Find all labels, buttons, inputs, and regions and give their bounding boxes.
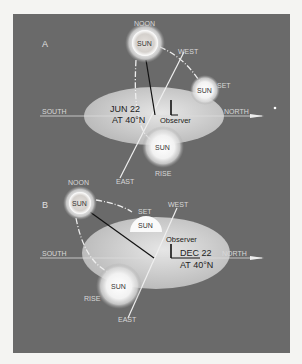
sun-rise-label: SUN <box>111 283 126 290</box>
sun-path-afternoon <box>96 200 132 212</box>
rise-label: RISE <box>84 295 101 302</box>
north-label: NORTH <box>224 108 249 115</box>
set-label: SET <box>138 208 152 215</box>
noon-label: NOON <box>68 179 89 186</box>
sun-noon-label: SUN <box>137 40 152 47</box>
sun-noon-label: SUN <box>72 200 87 207</box>
north-arrow-icon <box>250 114 264 118</box>
panel-b: B SUN NOON SUN SET SUN RISE WEST SOUTH N… <box>40 179 264 323</box>
latitude-label: AT 40°N <box>180 260 213 270</box>
south-label: SOUTH <box>42 108 67 115</box>
sun-set-label: SUN <box>138 222 153 229</box>
set-label: SET <box>217 82 231 89</box>
west-label: WEST <box>178 48 199 55</box>
panel-b-letter: B <box>42 200 48 210</box>
east-label: EAST <box>118 316 137 323</box>
observer-label: Observer <box>166 235 197 244</box>
west-label: WEST <box>168 201 189 208</box>
sun-path-diagram: A SUN NOON SUN SET SUN RISE WEST SOUTH N… <box>0 0 302 364</box>
date-label: JUN 22 <box>110 104 140 114</box>
rise-label: RISE <box>155 170 172 177</box>
observer-label: Observer <box>160 116 191 125</box>
noon-label: NOON <box>134 20 155 27</box>
latitude-label: AT 40°N <box>112 115 145 125</box>
star-dot <box>274 107 277 110</box>
north-label: NORTH <box>222 250 247 257</box>
north-arrow-icon <box>250 256 264 260</box>
sun-rise-label: SUN <box>155 144 170 151</box>
south-label: SOUTH <box>42 250 67 257</box>
sun-set-label: SUN <box>197 87 212 94</box>
date-label: DEC 22 <box>180 248 212 258</box>
east-label: EAST <box>116 178 135 185</box>
panel-a: A SUN NOON SUN SET SUN RISE WEST SOUTH N… <box>40 20 276 185</box>
panel-a-letter: A <box>42 39 48 49</box>
